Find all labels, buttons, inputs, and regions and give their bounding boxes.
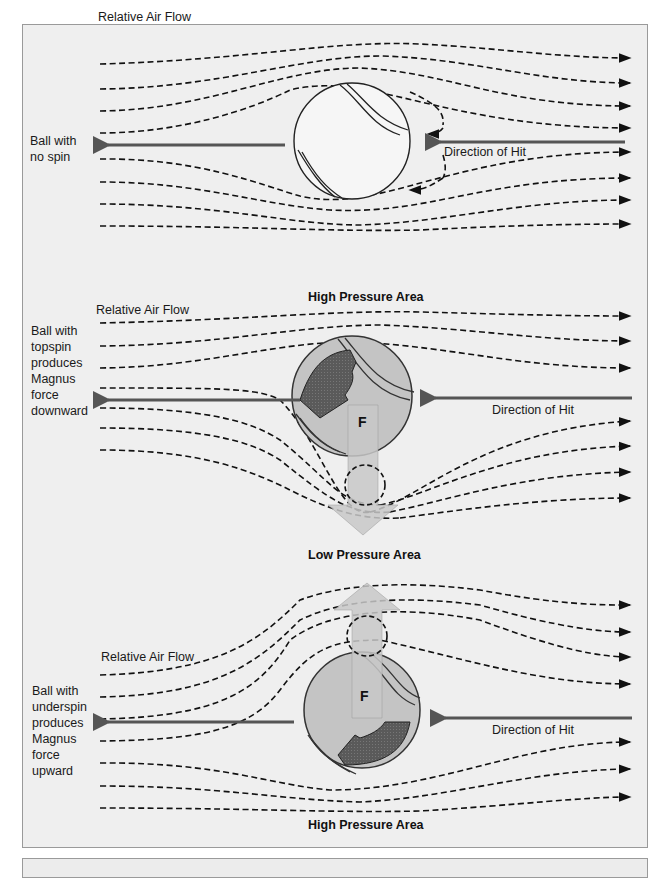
high-pressure-label-bottom: High Pressure Area [308, 818, 424, 832]
force-label-underspin: F [360, 688, 369, 704]
ball-underspin-label: Ball with underspin produces Magnus forc… [32, 683, 87, 779]
force-label-topspin: F [358, 414, 367, 430]
low-pressure-label: Low Pressure Area [308, 548, 421, 562]
direction-of-hit-label-3: Direction of Hit [492, 722, 574, 738]
tennis-ball-no-spin [294, 83, 410, 199]
ball-topspin-label: Ball with topspin produces Magnus force … [31, 323, 88, 419]
air-flow-label-2: Relative Air Flow [96, 302, 189, 318]
high-pressure-label-top: High Pressure Area [308, 290, 424, 304]
air-flow-label-1: Relative Air Flow [98, 9, 191, 25]
air-flow-label-3: Relative Air Flow [101, 649, 194, 665]
ball-no-spin-label: Ball with no spin [30, 133, 77, 165]
direction-of-hit-label-2: Direction of Hit [492, 402, 574, 418]
wake-vortex [410, 92, 445, 190]
panel-no-spin [100, 43, 630, 230]
direction-of-hit-label-1: Direction of Hit [444, 144, 526, 160]
